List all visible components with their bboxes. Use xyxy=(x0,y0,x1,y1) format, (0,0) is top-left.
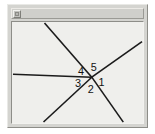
angle-label-1: 1 xyxy=(99,77,105,89)
window-box-icon[interactable] xyxy=(13,10,21,18)
angle-label-4: 4 xyxy=(78,65,84,77)
geometry-figure: 12345 xyxy=(12,22,143,123)
window-title-bar[interactable] xyxy=(11,8,144,19)
ray-down-left xyxy=(44,77,92,122)
angle-label-3: 3 xyxy=(75,78,81,90)
angle-label-2: 2 xyxy=(88,83,94,95)
application-window: 12345 xyxy=(7,4,148,128)
angle-label-5: 5 xyxy=(91,62,97,74)
ray-up-left-steep xyxy=(45,23,92,77)
ray-up-right xyxy=(92,42,142,78)
ray-down-right xyxy=(92,77,124,122)
figure-canvas: 12345 xyxy=(11,21,144,124)
